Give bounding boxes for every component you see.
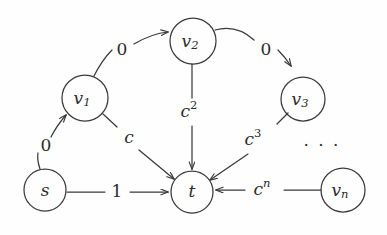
node-s[interactable]: s [24,169,66,211]
edge-v1-t-segment-upper [103,114,117,127]
node-t[interactable]: t [171,171,213,213]
edge-label-v2-t: c2 [181,98,198,121]
edge-label-v3-t: c3 [245,126,262,149]
edge-label-v2-v3: 0 [261,39,272,59]
edge-v1-t [103,114,174,179]
edge-v3-t-segment-upper [277,113,288,124]
ellipsis-label: · · · [303,135,340,155]
edge-v1-v2-segment-left [94,50,112,76]
edge-v1-t-segment-lower [139,150,174,179]
node-vn[interactable]: vn [321,168,365,212]
edge-v2-v3 [215,28,291,66]
edge-s-v1-segment-upper [51,115,66,137]
edge-label-s-v1: 0 [41,135,52,155]
node-vn-label: vn [331,180,348,202]
edge-label-v1-v2: 0 [117,39,128,59]
node-v2[interactable]: v2 [170,18,216,64]
node-v3-label: v3 [292,89,309,111]
edge-v2-v3-segment-right [278,50,291,66]
node-v1-label: v1 [74,88,91,110]
diagram-canvas: s v1 v2 v3 vn [0,0,387,235]
edge-s-v1-segment-lower [38,153,40,169]
node-s-label: s [41,180,50,200]
graph-svg: s v1 v2 v3 vn [0,0,387,235]
node-t-label: t [189,181,196,201]
edge-label-v1-t: c [124,127,134,147]
edge-v3-t-segment-lower [210,154,248,180]
edge-v1-v2-segment-right [134,32,168,44]
edge-label-vn-t: cn [254,176,271,199]
node-v3[interactable]: v3 [281,77,325,121]
edge-label-s-t: 1 [112,181,123,201]
edge-v1-v2 [94,32,168,76]
node-v1[interactable]: v1 [62,75,108,121]
node-v2-label: v2 [182,31,199,53]
edge-v2-v3-segment-left [215,28,254,40]
